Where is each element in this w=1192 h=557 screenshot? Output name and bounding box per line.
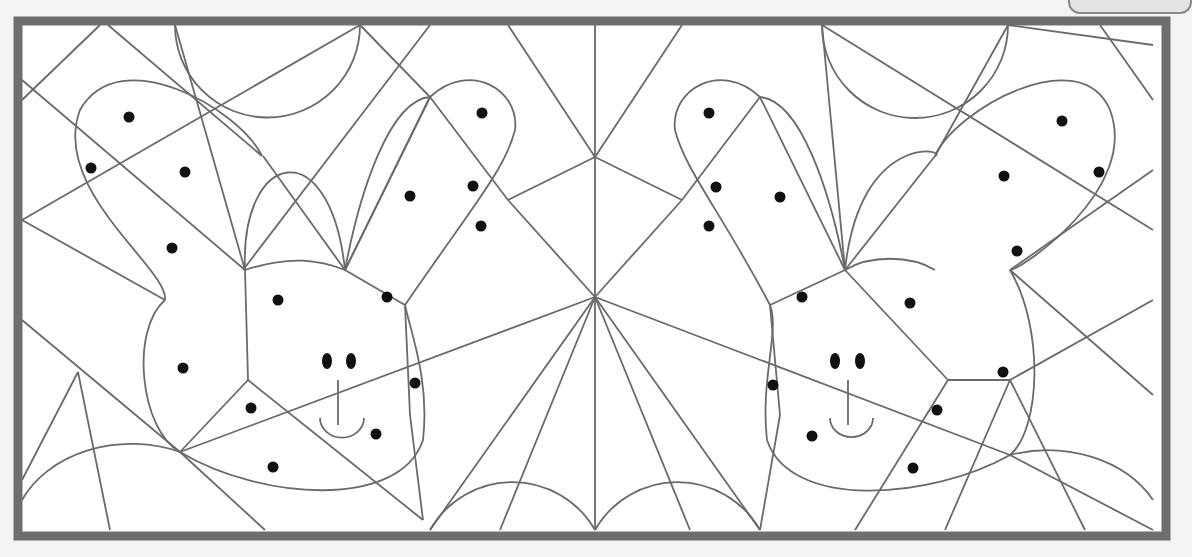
puzzle-dot <box>476 221 487 232</box>
puzzle-dot <box>246 403 257 414</box>
puzzle-dot <box>268 462 279 473</box>
puzzle-dot <box>1057 116 1068 127</box>
puzzle-dot <box>768 380 779 391</box>
puzzle-dot <box>797 292 808 303</box>
bear-eye <box>855 353 865 369</box>
puzzle-dot <box>704 221 715 232</box>
puzzle-dot <box>807 431 818 442</box>
puzzle-dot <box>711 182 722 193</box>
puzzle-dot <box>382 292 393 303</box>
puzzle-dot <box>999 171 1010 182</box>
bear-eye <box>830 353 840 369</box>
puzzle-dot <box>1094 167 1105 178</box>
bear-eye <box>346 353 356 369</box>
puzzle-dot <box>905 298 916 309</box>
puzzle-dot <box>178 363 189 374</box>
bear-eye <box>322 353 332 369</box>
puzzle-dot <box>167 243 178 254</box>
puzzle-dot <box>775 192 786 203</box>
puzzle-dot <box>405 191 416 202</box>
puzzle-dot <box>908 463 919 474</box>
puzzle-dot <box>371 429 382 440</box>
puzzle-dot <box>477 108 488 119</box>
puzzle-dot <box>704 108 715 119</box>
puzzle-dot <box>180 167 191 178</box>
puzzle-dot <box>468 181 479 192</box>
puzzle-dot <box>410 378 421 389</box>
puzzle-dot <box>1012 246 1023 257</box>
puzzle-dot <box>998 367 1009 378</box>
puzzle-dot <box>273 295 284 306</box>
puzzle-dot <box>86 163 97 174</box>
puzzle-dot <box>932 405 943 416</box>
puzzle-dot <box>124 112 135 123</box>
